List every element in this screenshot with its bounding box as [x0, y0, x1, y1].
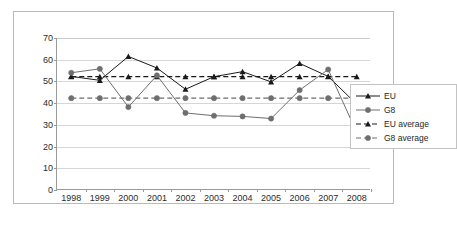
x-axis-label: 2008	[347, 194, 367, 203]
x-axis-label: 1999	[90, 194, 110, 203]
x-axis-label: 2002	[175, 194, 195, 203]
chart-legend: EU G8 EU average G8 average	[350, 84, 457, 149]
y-axis-label: 10	[43, 164, 53, 173]
y-axis-label: 40	[43, 99, 53, 108]
legend-item-g8-average[interactable]: G8 average	[351, 131, 456, 145]
plot-area: 010203040506070 199819992000200120022003…	[56, 38, 370, 190]
y-axis-label: 20	[43, 142, 53, 151]
series-g8-average	[69, 96, 360, 101]
legend-item-eu[interactable]: EU	[351, 89, 456, 103]
y-axis-label: 70	[43, 34, 53, 43]
legend-label-g8: G8	[384, 106, 395, 115]
x-axis-label: 2000	[118, 194, 138, 203]
legend-key-eu	[355, 91, 381, 101]
x-axis-label: 2004	[233, 194, 253, 203]
x-axis-label: 2003	[204, 194, 224, 203]
legend-label-eu-average: EU average	[384, 120, 429, 129]
x-axis-label: 2007	[318, 194, 338, 203]
legend-item-g8[interactable]: G8	[351, 103, 456, 117]
x-axis-label: 1998	[61, 194, 81, 203]
legend-key-eu-average	[355, 119, 381, 129]
y-axis-tick-mark	[54, 190, 57, 191]
legend-key-g8	[355, 105, 381, 115]
x-axis-label: 2006	[290, 194, 310, 203]
y-axis-label: 50	[43, 77, 53, 86]
legend-key-g8-average	[355, 133, 381, 143]
chart-frame: 010203040506070 199819992000200120022003…	[13, 11, 394, 204]
y-axis-label: 30	[43, 120, 53, 129]
legend-label-eu: EU	[384, 92, 396, 101]
x-axis-label: 2001	[147, 194, 167, 203]
legend-item-eu-average[interactable]: EU average	[351, 117, 456, 131]
series-lines	[57, 38, 371, 190]
y-axis-label: 60	[43, 55, 53, 64]
legend-label-g8-average: G8 average	[384, 134, 428, 143]
x-axis-label: 2005	[261, 194, 281, 203]
x-axis-tick-mark	[371, 189, 372, 192]
y-axis-label: 0	[48, 186, 53, 195]
